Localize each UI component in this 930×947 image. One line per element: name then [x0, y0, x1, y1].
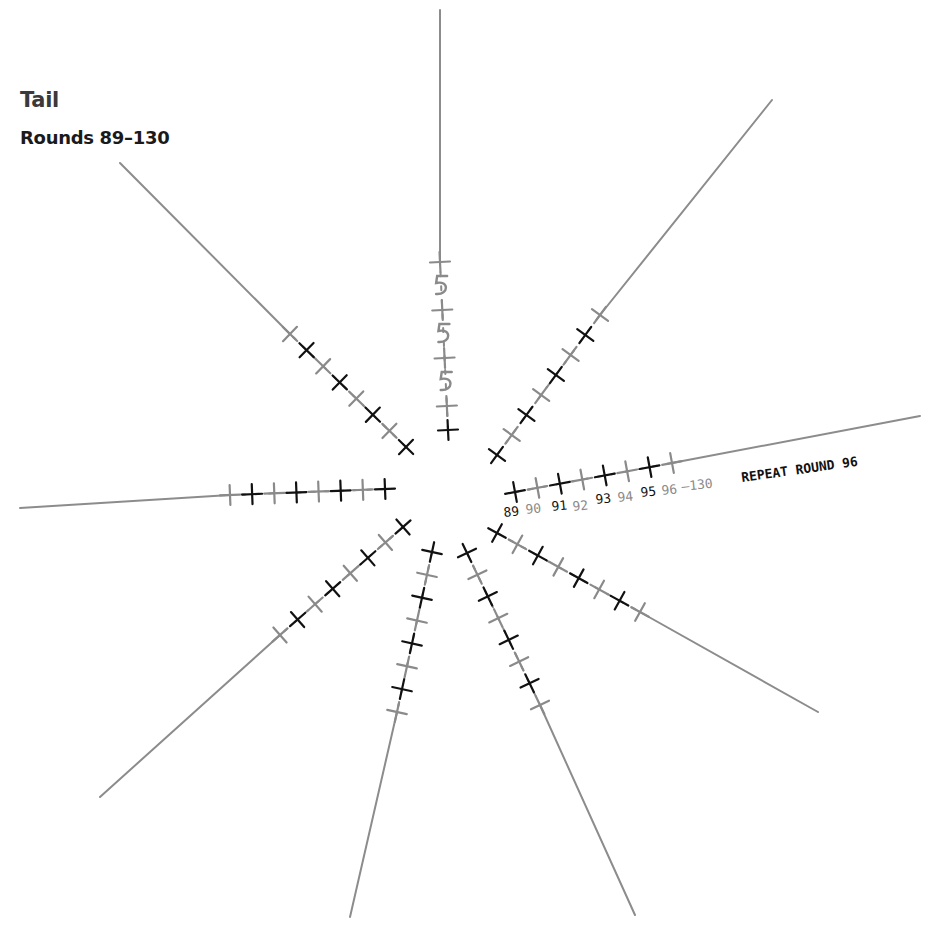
- cross-stitch-icon: [397, 657, 417, 677]
- round-label-91: 91: [551, 497, 568, 514]
- repeat-note: REPEAT ROUND 96: [740, 454, 859, 485]
- cross-stitch-icon: [378, 535, 393, 550]
- round-label-89: 89: [503, 503, 520, 520]
- cross-stitch-icon: [521, 674, 539, 692]
- cross-stitch-icon: [479, 587, 497, 605]
- cross-stitch-icon: [531, 696, 549, 714]
- round-label-93: 93: [595, 490, 612, 507]
- cross-stitch-icon: [316, 359, 330, 373]
- cross-stitch-icon: [392, 679, 412, 699]
- cross-stitch-icon: [375, 479, 395, 499]
- cross-stitch-icon: [504, 427, 520, 443]
- cross-stitch-icon: [529, 547, 547, 565]
- cross-stitch-icon: [407, 611, 427, 631]
- cross-stitch-icon: [353, 480, 373, 500]
- cross-stitch-icon: [286, 482, 306, 502]
- round-range-suffix: –130: [681, 476, 714, 494]
- spoke-line-bottom-right: [540, 705, 635, 915]
- cross-stitch-icon: [489, 447, 505, 463]
- cross-stitch-icon: [387, 702, 407, 722]
- cross-stitch-icon: [489, 609, 507, 627]
- cross-stitch-icon: [528, 478, 548, 498]
- cross-stitch-icon: [242, 484, 262, 504]
- cross-stitch-icon: [572, 470, 592, 490]
- cross-stitch-icon: [590, 581, 608, 599]
- cross-stitch-icon: [611, 592, 629, 610]
- cross-stitch-icon: [331, 481, 351, 501]
- cross-stitch-icon: [432, 300, 452, 320]
- cross-stitch-icon: [437, 396, 457, 416]
- cross-stitch-icon: [488, 524, 506, 542]
- cross-stitch-icon: [631, 603, 649, 621]
- cross-stitch-icon: [550, 558, 568, 576]
- cross-stitch-icon: [366, 408, 380, 422]
- cross-stitch-icon: [563, 347, 579, 363]
- cross-stitch-icon: [290, 612, 305, 627]
- cross-stitch-icon: [435, 348, 455, 368]
- cross-stitch-icon: [283, 327, 297, 341]
- cross-stitch-icon: [500, 631, 518, 649]
- cross-stitch-icon: [550, 474, 570, 494]
- cross-stitch-icon: [458, 544, 476, 562]
- cross-stitch-icon: [518, 407, 534, 423]
- round-label-90: 90: [525, 500, 542, 517]
- round-label-96: 96: [661, 481, 678, 498]
- cross-stitch-icon: [430, 252, 450, 272]
- round-labels: 89 90 91 92 93 94 95 96 –130 REPEAT ROUN…: [503, 454, 859, 520]
- cross-stitch-icon: [264, 483, 284, 503]
- cross-stitch-icon: [382, 424, 396, 438]
- cross-stitch-icon: [325, 581, 340, 596]
- spoke-line-upper-right: [600, 100, 772, 315]
- cross-stitch-icon: [640, 457, 660, 477]
- cross-stitch-icon: [395, 519, 410, 534]
- spoke-line-right: [672, 416, 920, 463]
- cross-stitch-icon: [308, 597, 323, 612]
- spoke-line-lower-right: [640, 612, 818, 712]
- cross-stitch-icon: [309, 482, 329, 502]
- cross-stitch-icon: [272, 627, 287, 642]
- spoke-line-upper-left: [120, 163, 290, 334]
- cross-stitch-icon: [349, 391, 363, 405]
- loop-stitch-icon: [438, 324, 449, 342]
- cross-stitch-icon: [438, 420, 458, 440]
- spoke-line-bottom: [350, 712, 397, 917]
- cross-stitch-icon: [577, 327, 593, 343]
- cross-stitch-icon: [333, 375, 347, 389]
- round-label-95: 95: [640, 483, 657, 500]
- cross-stitch-icon: [299, 343, 313, 357]
- cross-stitch-icon: [548, 367, 564, 383]
- round-label-92: 92: [572, 497, 589, 514]
- cross-stitch-icon: [662, 453, 682, 473]
- cross-stitch-icon: [343, 566, 358, 581]
- cross-stitch-icon: [533, 387, 549, 403]
- cross-stitch-icon: [505, 482, 525, 502]
- cross-stitch-icon: [422, 542, 442, 562]
- cross-stitch-icon: [360, 550, 375, 565]
- spoke-line-left: [20, 495, 230, 508]
- cross-stitch-icon: [468, 566, 486, 584]
- cross-stitch-icon: [399, 440, 413, 454]
- round-label-94: 94: [617, 488, 634, 505]
- cross-stitch-icon: [510, 653, 528, 671]
- cross-stitch-icon: [509, 536, 527, 554]
- cross-stitch-icon: [617, 461, 637, 481]
- crochet-chart: 89 90 91 92 93 94 95 96 –130 REPEAT ROUN…: [0, 0, 930, 947]
- cross-stitch-icon: [595, 466, 615, 486]
- cross-stitch-icon: [402, 634, 422, 654]
- spoke-line-lower-left: [100, 635, 280, 797]
- cross-stitch-icon: [417, 565, 437, 585]
- cross-stitch-icon: [220, 485, 240, 505]
- cross-stitch-icon: [570, 569, 588, 587]
- loop-stitch-icon: [436, 276, 447, 294]
- stitch-marks: [220, 252, 682, 722]
- cross-stitch-icon: [412, 588, 432, 608]
